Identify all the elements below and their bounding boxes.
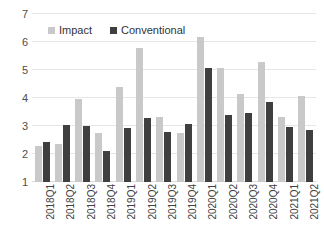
bar-impact xyxy=(75,99,82,182)
x-axis-tick-label: 2020Q1 xyxy=(208,184,218,220)
bar-group xyxy=(174,14,194,182)
bar-impact xyxy=(278,117,285,182)
y-axis-tick-label: 3 xyxy=(6,121,28,132)
y-axis-tick-label: 7 xyxy=(6,9,28,20)
bar-conventional xyxy=(306,130,313,182)
bar-impact xyxy=(116,87,123,182)
plot-area xyxy=(32,14,316,182)
bar-impact xyxy=(95,133,102,182)
bar-group xyxy=(296,14,316,182)
x-axis-tick-label: 2019Q4 xyxy=(188,184,198,220)
legend-swatch-icon xyxy=(110,27,117,34)
bar-impact xyxy=(35,146,42,182)
bar-impact xyxy=(156,117,163,182)
bar-impact xyxy=(258,62,265,182)
x-axis-tick-label: 2020Q3 xyxy=(249,184,259,220)
legend-label: Conventional xyxy=(121,25,185,36)
y-axis-tick-label: 1 xyxy=(6,177,28,188)
bar-group xyxy=(93,14,113,182)
bar-group xyxy=(255,14,275,182)
y-axis-tick-label: 6 xyxy=(6,37,28,48)
bar-conventional xyxy=(103,151,110,182)
bar-group xyxy=(113,14,133,182)
x-axis-tick-label: 2019Q2 xyxy=(148,184,158,220)
bar-conventional xyxy=(144,118,151,182)
bar-conventional xyxy=(124,128,131,182)
bar-conventional xyxy=(63,125,70,182)
legend-entry: Conventional xyxy=(110,25,185,36)
x-axis-tick-label: 2018Q4 xyxy=(107,184,117,220)
legend-label: Impact xyxy=(59,25,92,36)
bar-conventional xyxy=(286,127,293,182)
bar-group xyxy=(154,14,174,182)
bar-conventional xyxy=(225,115,232,182)
legend-swatch-icon xyxy=(48,27,55,34)
x-axis-tick-label: 2018Q1 xyxy=(46,184,56,220)
y-axis-tick-label: 4 xyxy=(6,93,28,104)
chart-legend: ImpactConventional xyxy=(48,25,185,36)
x-axis-tick-label: 2018Q3 xyxy=(87,184,97,220)
bar-conventional xyxy=(185,124,192,182)
y-axis-tick-label: 5 xyxy=(6,65,28,76)
x-axis-tick-label: 2020Q2 xyxy=(229,184,239,220)
y-axis-tick-label: 2 xyxy=(6,149,28,160)
bar-conventional xyxy=(83,126,90,182)
legend-entry: Impact xyxy=(48,25,92,36)
bar-conventional xyxy=(43,142,50,182)
x-axis-tick-label: 2019Q1 xyxy=(127,184,137,220)
bar-impact xyxy=(197,37,204,182)
bar-impact xyxy=(237,94,244,182)
bar-group xyxy=(73,14,93,182)
bar-conventional xyxy=(266,102,273,182)
bar-group xyxy=(275,14,295,182)
bar-impact xyxy=(177,133,184,182)
bar-impact xyxy=(136,48,143,182)
bar-group xyxy=(32,14,52,182)
bar-impact xyxy=(298,96,305,182)
bar-group xyxy=(52,14,72,182)
x-axis-tick-label: 2021Q1 xyxy=(290,184,300,220)
bar-group xyxy=(235,14,255,182)
x-axis-tick-label: 2021Q2 xyxy=(310,184,320,220)
x-axis-tick-label: 2020Q4 xyxy=(269,184,279,220)
bar-chart: 1234567 2018Q12018Q22018Q32018Q42019Q120… xyxy=(0,0,324,241)
bar-conventional xyxy=(164,132,171,182)
bar-conventional xyxy=(205,68,212,182)
bar-group xyxy=(133,14,153,182)
x-axis-tick-label: 2019Q3 xyxy=(168,184,178,220)
x-axis-tick-label: 2018Q2 xyxy=(66,184,76,220)
x-axis-tick-labels: 2018Q12018Q22018Q32018Q42019Q12019Q22019… xyxy=(32,184,316,241)
bar-conventional xyxy=(245,113,252,182)
bar-impact xyxy=(217,68,224,182)
bar-impact xyxy=(55,144,62,182)
bars-layer xyxy=(32,14,316,182)
bar-group xyxy=(194,14,214,182)
bar-group xyxy=(215,14,235,182)
